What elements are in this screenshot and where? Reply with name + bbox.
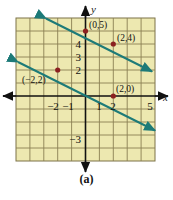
x-tick-5: 5	[147, 100, 153, 112]
y-tick-2: 2	[76, 64, 82, 76]
x-axis-label: x	[162, 91, 168, 103]
point-2-0	[111, 93, 116, 98]
y-tick-3: 3	[76, 51, 82, 63]
x-tick-neg2: −2	[47, 100, 59, 112]
point-0-5	[83, 28, 88, 33]
coordinate-plane-figure: y x (0,5) (2,4) (−2,2) (2,0) −2 −1 1 2 5…	[0, 0, 173, 200]
point-label-neg2-2: (−2,2)	[22, 75, 46, 86]
y-tick-4: 4	[76, 38, 82, 50]
figure-caption: (a)	[0, 172, 173, 187]
x-tick-neg1: −1	[62, 100, 74, 112]
y-axis-label: y	[90, 3, 96, 15]
x-tick-1: 1	[96, 100, 102, 112]
x-tick-2: 2	[110, 100, 116, 112]
point-neg2-2	[55, 67, 60, 72]
point-label-0-5: (0,5)	[89, 20, 107, 31]
graph-svg: y x (0,5) (2,4) (−2,2) (2,0) −2 −1 1 2 5…	[0, 0, 173, 200]
point-2-4	[111, 41, 116, 46]
y-tick-neg3: −3	[69, 133, 81, 145]
point-label-2-4: (2,4)	[117, 33, 135, 44]
point-label-2-0: (2,0)	[116, 84, 134, 95]
